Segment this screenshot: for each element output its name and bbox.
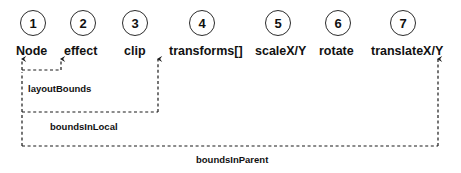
step-label-translate: translateX/Y [371,45,443,58]
step-circle-6: 6 [325,10,351,36]
step-circle-6-number: 6 [334,17,341,30]
step-label-scale: scaleX/Y [255,45,306,58]
step-label-clip: clip [124,45,146,58]
step-circle-5-number: 5 [274,17,281,30]
bracket-layoutBounds [22,59,61,70]
step-circle-1-number: 1 [29,17,36,30]
step-label-effect: effect [64,45,97,58]
step-circle-7-number: 7 [399,17,406,30]
step-circle-4-number: 4 [198,17,205,30]
step-label-transforms: transforms[] [169,45,243,58]
step-circle-5: 5 [265,10,291,36]
step-label-rotate: rotate [319,45,354,58]
bracket-label-boundsInParent: boundsInParent [196,155,268,165]
step-circle-3-number: 3 [131,17,138,30]
step-circle-3: 3 [122,10,148,36]
bracket-label-layoutBounds: layoutBounds [28,84,91,94]
bounds-diagram: 1 2 3 4 5 6 7 Node effect clip transform… [0,0,461,173]
bracket-boundsInParent [22,59,438,146]
step-circle-2-number: 2 [79,17,86,30]
step-circle-2: 2 [70,10,96,36]
step-circle-1: 1 [20,10,46,36]
step-circle-4: 4 [189,10,215,36]
step-circle-7: 7 [390,10,416,36]
step-label-node: Node [16,45,47,58]
bracket-label-boundsInLocal: boundsInLocal [50,122,118,132]
